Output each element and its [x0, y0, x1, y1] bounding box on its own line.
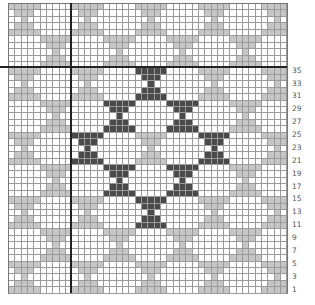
row-number-label: 9 [292, 234, 297, 242]
row-number-label: 35 [292, 67, 302, 75]
row-number-label: 13 [292, 208, 302, 216]
row-number-label: 19 [292, 170, 302, 178]
row-number-label: 21 [292, 157, 302, 165]
row-number-label: 5 [292, 260, 297, 268]
heavy-vertical-line [70, 3, 72, 293]
row-number-label: 17 [292, 183, 302, 191]
row-number-label: 31 [292, 92, 302, 100]
row-number-label: 23 [292, 144, 302, 152]
row-number-label: 25 [292, 131, 302, 139]
row-number-label: 7 [292, 247, 297, 255]
row-number-label: 1 [292, 286, 297, 294]
heavy-horizontal-line [0, 66, 287, 68]
row-number-label: 3 [292, 273, 297, 281]
chart-cell [281, 287, 287, 293]
knitting-chart-grid [8, 3, 288, 294]
row-number-label: 27 [292, 118, 302, 126]
row-number-label: 11 [292, 221, 302, 229]
row-number-label: 29 [292, 105, 302, 113]
row-number-label: 33 [292, 80, 302, 88]
row-number-label: 15 [292, 195, 302, 203]
